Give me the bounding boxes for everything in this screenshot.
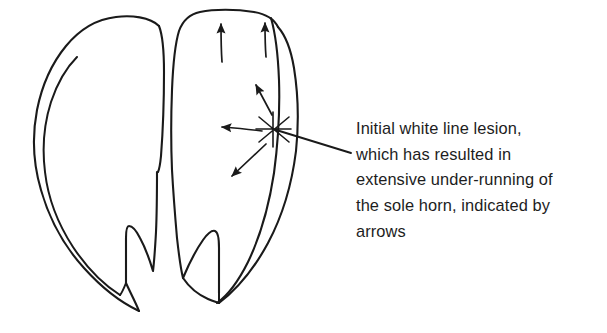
arrow-down-left-diagonal <box>232 144 266 176</box>
left-claw-sole-edge <box>126 172 157 283</box>
caption-line-3: extensive under-running of <box>356 167 600 193</box>
lesion-caption: Initial white line lesion, which has res… <box>356 116 600 245</box>
right-claw-axial-wall <box>171 10 278 170</box>
arrow-up-left-diagonal <box>256 85 272 115</box>
figure-root: Initial white line lesion, which has res… <box>0 0 607 333</box>
right-claw-sole-edge <box>172 170 219 293</box>
caption-leader-line <box>273 129 351 153</box>
left-claw-abaxial-wall <box>34 16 159 311</box>
arrow-up-right-top <box>265 23 266 57</box>
caption-line-4: the sole horn, indicated by <box>356 193 600 219</box>
left-claw-white-line <box>44 57 120 295</box>
caption-line-5: arrows <box>356 219 600 245</box>
caption-line-1: Initial white line lesion, <box>356 116 600 142</box>
arrow-up-left-top <box>221 24 222 62</box>
caption-line-2: which has resulted in <box>356 142 600 168</box>
right-claw-heel-bottom <box>183 278 219 303</box>
left-claw-axial-wall <box>158 26 164 172</box>
right-claw-abaxial-wall <box>219 27 298 303</box>
left-claw-sole-inner-join <box>120 283 126 295</box>
